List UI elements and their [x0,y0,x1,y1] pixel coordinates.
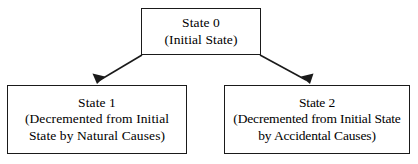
state-1-description-line-2: State by Natural Causes) [29,128,165,145]
state-node-state-1: State 1 (Decremented from Initial State … [7,85,187,154]
state-1-description-line-1: (Decremented from Initial [25,111,169,128]
edge-state0-to-state2 [260,55,314,84]
state-2-description-line-1: (Decremented from Initial State [233,111,400,128]
state-0-description-line-1: (Initial State) [164,32,237,49]
arrowhead-right-icon [301,74,314,85]
edge-line-right [260,55,306,80]
arrowhead-left-icon [93,74,106,85]
state-0-title: State 0 [182,15,220,32]
edge-state0-to-state1 [93,55,143,84]
state-node-state-0: State 0 (Initial State) [141,8,261,55]
state-node-state-2: State 2 (Decremented from Initial State … [224,85,410,154]
state-2-description-line-2: by Accidental Causes) [258,128,376,145]
state-diagram: State 0 (Initial State) State 1 (Decreme… [0,0,418,164]
state-1-title: State 1 [78,95,116,112]
edge-line-left [100,55,142,80]
state-2-title: State 2 [299,95,335,112]
